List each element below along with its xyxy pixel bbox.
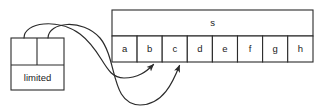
- array-cell-g-label: g: [273, 43, 278, 54]
- array-cell-a-label: a: [122, 43, 128, 54]
- limited-node: limited: [11, 38, 64, 90]
- limited-node-label: limited: [24, 72, 51, 83]
- array-header-label: s: [210, 17, 215, 28]
- array-cell-e-label: e: [222, 43, 227, 54]
- array-cell-d-label: d: [197, 43, 202, 54]
- diagram-svg: limited s a b c d e f g h: [0, 0, 325, 111]
- array-cell-h-label: h: [298, 43, 303, 54]
- array-cell-c-label: c: [172, 43, 177, 54]
- array-cell-b-label: b: [147, 43, 152, 54]
- diagram-canvas: limited s a b c d e f g h: [0, 0, 325, 111]
- array-s: s a b c d e f g h: [112, 10, 313, 62]
- array-cell-f-label: f: [249, 43, 252, 54]
